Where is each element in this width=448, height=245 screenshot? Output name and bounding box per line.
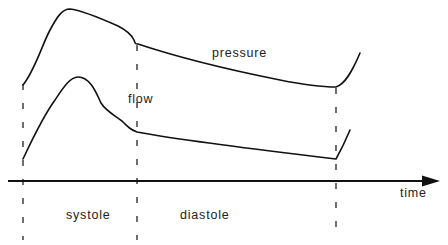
flow-label: flow	[128, 92, 154, 106]
time-axis-arrowhead-icon	[422, 176, 440, 187]
diastole-label: diastole	[180, 208, 230, 222]
pressure-label: pressure	[212, 46, 267, 60]
systole-label: systole	[66, 208, 111, 222]
time-label: time	[400, 186, 427, 200]
cardiac-cycle-diagram: pressure flow time systole diastole	[0, 0, 448, 245]
pressure-curve	[23, 9, 360, 87]
flow-curve	[23, 77, 350, 159]
